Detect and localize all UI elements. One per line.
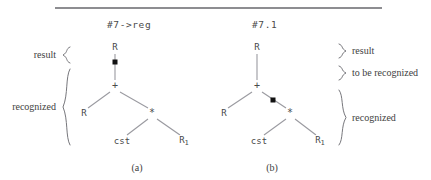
brace-stroke xyxy=(63,69,70,145)
right-label-to-be-recognized: to be recognized xyxy=(352,68,418,78)
tree-b-node-times: * xyxy=(286,108,294,118)
left-brace-result xyxy=(62,46,71,64)
tree-b-node-left-child: R xyxy=(220,109,227,118)
node-label-text: cst xyxy=(251,136,267,146)
right-brace-to-be-recognized xyxy=(338,65,347,81)
right-label-result: result xyxy=(352,46,374,56)
parse-tree-figure: #7->reg #7.1 R+R*cstR1R+R*cstR1 resultre… xyxy=(0,0,431,180)
node-label-text: * xyxy=(149,107,155,118)
tree-a-node-cst: cst xyxy=(113,137,131,146)
tree-b-title: #7.1 xyxy=(252,19,277,30)
left-brace-recognized xyxy=(62,68,71,146)
node-label-text: * xyxy=(287,107,293,118)
tree-a-edge-plus-to-times xyxy=(120,92,148,108)
node-label-text: R xyxy=(81,108,86,118)
node-label-text: + xyxy=(112,80,118,91)
right-label-recognized: recognized xyxy=(352,113,396,123)
brace-stroke xyxy=(63,47,70,63)
tree-a-edge-times-to-r1 xyxy=(157,119,180,135)
right-brace-recognized xyxy=(338,89,347,146)
node-label-text: R xyxy=(221,108,226,118)
tree-b-node-r-sub-one: R1 xyxy=(314,136,326,147)
node-label-subscript: 1 xyxy=(321,139,325,147)
tree-a-node-plus: + xyxy=(111,81,119,91)
node-label-subscript: 1 xyxy=(185,139,189,147)
tree-b-edge-times-to-cst xyxy=(264,119,286,135)
tree-b-node-cst: cst xyxy=(250,137,268,146)
tree-a-parse-position-dot xyxy=(113,60,118,65)
tree-a-node-root: R xyxy=(111,43,118,52)
tree-a-node-left-child: R xyxy=(80,109,87,118)
brace-stroke xyxy=(339,90,346,145)
tree-a-node-r-sub-one: R1 xyxy=(178,136,190,147)
tree-b-parse-position-dot xyxy=(271,98,276,103)
node-label-text: + xyxy=(254,80,260,91)
tree-a-edge-plus-to-left xyxy=(88,92,110,108)
brace-stroke xyxy=(339,66,346,80)
node-label-text: R xyxy=(254,42,259,52)
left-label-result: result xyxy=(34,50,56,60)
brace-stroke xyxy=(339,44,346,58)
caption-b: (b) xyxy=(266,162,278,173)
tree-a-title: #7->reg xyxy=(107,19,151,30)
tree-b-edge-times-to-r1 xyxy=(295,119,316,135)
caption-a: (a) xyxy=(131,162,142,173)
right-brace-result xyxy=(338,43,347,59)
node-label-text: cst xyxy=(114,136,130,146)
tree-b-node-plus: + xyxy=(253,81,261,91)
node-label-text: R xyxy=(112,42,117,52)
left-label-recognized: recognized xyxy=(12,102,56,112)
tree-a-node-times: * xyxy=(148,108,156,118)
tree-b-edge-plus-to-left xyxy=(228,92,252,108)
tree-b-node-root: R xyxy=(253,43,260,52)
tree-a-edge-times-to-cst xyxy=(127,119,148,135)
